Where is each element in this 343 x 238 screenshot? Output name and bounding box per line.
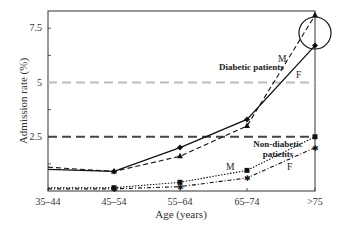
label-diabetic-f: F — [296, 70, 301, 80]
label-nondiabetic-2: patients — [263, 149, 294, 159]
y-tick-label: 2.5 — [30, 131, 43, 142]
chart: 2.557.535–4445–5455–6465–74>75Age (years… — [0, 0, 343, 238]
label-nondiabetic: Non-diabetic — [253, 139, 303, 149]
label-nondiabetic-f: F — [287, 162, 292, 172]
star-marker: ✱ — [177, 183, 184, 192]
x-axis-title: Age (years) — [155, 208, 207, 221]
diamond-marker — [111, 168, 117, 174]
label-diabetic-m: M — [278, 54, 287, 64]
square-marker — [313, 134, 318, 139]
y-axis-title: Admission rate (%) — [17, 58, 30, 144]
x-tick-label: 65–74 — [235, 196, 260, 207]
star-marker: ✱ — [312, 144, 319, 153]
x-tick-label: 35–44 — [36, 196, 61, 207]
x-tick-label: >75 — [307, 196, 323, 207]
diamond-marker — [177, 145, 183, 151]
x-tick-label: 45–54 — [102, 196, 127, 207]
square-marker — [245, 168, 250, 173]
label-nondiabetic-m: M — [226, 162, 235, 172]
x-tick-label: 55–64 — [168, 196, 193, 207]
y-tick-label: 7.5 — [30, 22, 43, 33]
label-diabetic: Diabetic patients — [219, 62, 284, 72]
y-tick-label: 5 — [37, 77, 42, 88]
plot-frame — [48, 11, 315, 191]
star-marker: ✱ — [111, 185, 118, 194]
star-marker: ✱ — [244, 174, 251, 183]
